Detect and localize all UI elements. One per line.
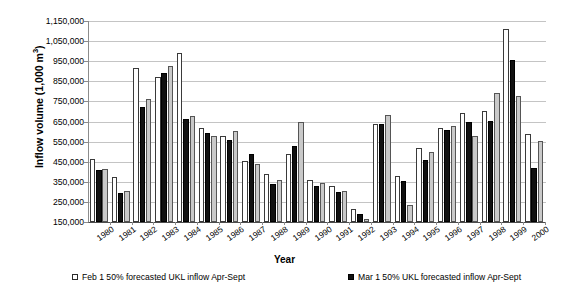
bar-group [153, 21, 175, 222]
y-axis-tick-label: 150,000 [10, 218, 84, 227]
bar-act-1993 [385, 115, 390, 222]
y-axis-tick-label: 1,050,000 [10, 37, 84, 46]
legend-label-mar: Mar 1 50% UKL forecasted inflow Apr-Sept [358, 272, 521, 282]
bar-feb-1992 [351, 209, 356, 222]
bar-group [240, 21, 262, 222]
bar-mar-1999 [510, 60, 515, 222]
bar-act-1999 [516, 96, 521, 222]
x-axis-tick-label-1993: 1993 [378, 224, 399, 243]
bar-feb-2000 [525, 134, 530, 222]
bar-mar-1989 [292, 146, 297, 222]
x-axis-tick-label-1982: 1982 [138, 224, 159, 243]
bar-act-2000 [538, 141, 543, 222]
x-axis-tick-label-1994: 1994 [399, 224, 420, 243]
inflow-volume-bar-chart: Inflow volume (1,000 m3) 1,150,0001,050,… [0, 0, 569, 289]
x-axis-tick-label-1989: 1989 [290, 224, 311, 243]
bar-group [414, 21, 436, 222]
bar-feb-1997 [460, 113, 465, 222]
bar-mar-1997 [466, 122, 471, 223]
bar-act-1984 [190, 116, 195, 222]
bar-feb-1983 [155, 77, 160, 222]
bar-mar-1992 [357, 214, 362, 222]
bar-act-1981 [124, 191, 129, 222]
bar-feb-1996 [438, 128, 443, 222]
bar-feb-1990 [307, 180, 312, 222]
bar-act-1997 [472, 136, 477, 222]
bar-act-1995 [429, 152, 434, 222]
bar-feb-1984 [177, 53, 182, 222]
bar-group [88, 21, 110, 222]
bar-act-1990 [320, 183, 325, 222]
x-axis-tick-label-2000: 2000 [530, 224, 551, 243]
bar-act-1994 [407, 205, 412, 222]
bar-act-1983 [168, 66, 173, 222]
bar-act-1996 [451, 126, 456, 222]
x-axis-tick-label-1986: 1986 [225, 224, 246, 243]
bar-act-1988 [277, 180, 282, 222]
bar-feb-1991 [329, 186, 334, 222]
bar-feb-1998 [482, 111, 487, 222]
bar-feb-1986 [220, 136, 225, 222]
legend-swatch-feb-icon [72, 274, 78, 280]
bar-group [284, 21, 306, 222]
bar-group [458, 21, 480, 222]
bar-group [393, 21, 415, 222]
bar-mar-1986 [227, 140, 232, 222]
bar-act-1992 [364, 219, 369, 222]
bar-group [349, 21, 371, 222]
bar-group [480, 21, 502, 222]
bar-feb-1994 [395, 176, 400, 222]
bar-group [501, 21, 523, 222]
bar-mar-1987 [249, 154, 254, 222]
bar-mar-1985 [205, 133, 210, 222]
bar-group [306, 21, 328, 222]
y-axis-tick-labels: 1,150,0001,050,000950,000850,000750,0006… [0, 21, 84, 222]
y-axis-tick-label: 1,150,000 [10, 17, 84, 26]
bar-act-1980 [102, 169, 107, 222]
bar-act-1989 [298, 122, 303, 223]
legend-item-mar: Mar 1 50% UKL forecasted inflow Apr-Sept [348, 272, 521, 282]
x-axis-tick-label-1990: 1990 [312, 224, 333, 243]
chart-legend: Feb 1 50% forecasted UKL inflow Apr-Sept… [0, 272, 569, 288]
bar-act-1985 [211, 136, 216, 222]
bar-group [436, 21, 458, 222]
bar-act-1987 [255, 164, 260, 222]
bar-group [327, 21, 349, 222]
bars-layer [88, 21, 545, 222]
bar-group [219, 21, 241, 222]
x-axis-tick-label-1980: 1980 [95, 224, 116, 243]
legend-item-feb: Feb 1 50% forecasted UKL inflow Apr-Sept [72, 272, 245, 282]
bar-mar-1988 [270, 184, 275, 222]
bar-feb-1987 [242, 161, 247, 222]
bar-mar-1982 [140, 107, 145, 222]
bar-act-1986 [233, 131, 238, 222]
bar-act-1982 [146, 99, 151, 222]
bar-feb-1985 [199, 128, 204, 222]
legend-label-feb: Feb 1 50% forecasted UKL inflow Apr-Sept [82, 272, 245, 282]
bar-mar-1984 [183, 119, 188, 223]
bar-mar-1998 [488, 121, 493, 223]
y-axis-tick-label: 850,000 [10, 77, 84, 86]
bar-feb-1989 [286, 154, 291, 222]
x-axis-tick-label-1981: 1981 [116, 224, 137, 243]
x-axis-tick-label-1983: 1983 [160, 224, 181, 243]
y-axis-tick-label: 550,000 [10, 137, 84, 146]
bar-mar-1981 [118, 193, 123, 222]
bar-feb-1999 [503, 29, 508, 222]
y-axis-tick-label: 350,000 [10, 178, 84, 187]
bar-act-1998 [494, 93, 499, 222]
bar-feb-1993 [373, 124, 378, 222]
x-axis-tick-label-1992: 1992 [356, 224, 377, 243]
y-axis-tick-label: 450,000 [10, 157, 84, 166]
bar-mar-2000 [531, 168, 536, 222]
bar-mar-1983 [161, 73, 166, 222]
bar-group [371, 21, 393, 222]
x-axis-tick-label-1988: 1988 [269, 224, 290, 243]
bar-group [175, 21, 197, 222]
bar-mar-1995 [423, 160, 428, 222]
bar-mar-1980 [96, 170, 101, 222]
bar-feb-1980 [90, 159, 95, 222]
bar-feb-1982 [133, 68, 138, 222]
y-axis-tick-label: 750,000 [10, 97, 84, 106]
bar-group [262, 21, 284, 222]
